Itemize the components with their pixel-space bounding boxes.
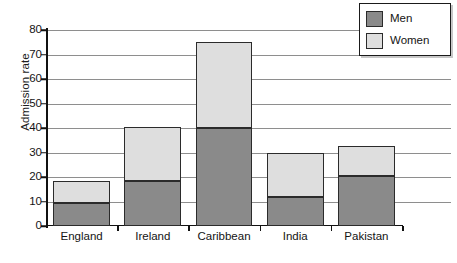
legend-swatch-men-icon (366, 11, 383, 27)
bar-segment-men[interactable] (338, 176, 395, 226)
x-axis-tick-labels: EnglandIrelandCaribbeanIndiaPakistan (46, 231, 406, 251)
bar-segment-women[interactable] (338, 146, 395, 175)
legend-item-men: Men (366, 9, 445, 28)
legend-item-women: Women (366, 31, 445, 50)
legend-swatch-women-icon (366, 33, 383, 49)
stacked-bar-chart: Admission rate 01020304050607080 England… (0, 0, 457, 263)
y-axis-tick-labels: 01020304050607080 (16, 30, 42, 226)
bar-segment-women[interactable] (124, 127, 181, 181)
y-tick-label: 10 (16, 196, 42, 208)
y-tick-label: 50 (16, 98, 42, 110)
y-tick-label: 70 (16, 49, 42, 61)
bar-group[interactable] (196, 42, 253, 226)
legend-label-men: Men (390, 13, 412, 25)
bar-segment-women[interactable] (53, 181, 110, 203)
y-tick-mark (41, 176, 46, 178)
y-tick-label: 30 (16, 147, 42, 159)
x-tick-label: Pakistan (344, 231, 388, 243)
bar-group[interactable] (53, 181, 110, 226)
bar-segment-women[interactable] (196, 42, 253, 128)
legend: Men Women (359, 3, 451, 56)
y-tick-mark (41, 103, 46, 105)
y-tick-label: 0 (16, 220, 42, 232)
y-tick-mark (41, 225, 46, 227)
bar-segment-women[interactable] (267, 153, 324, 197)
y-tick-mark (41, 127, 46, 129)
x-tick-label: Ireland (135, 231, 170, 243)
bar-group[interactable] (338, 146, 395, 226)
bar-segment-men[interactable] (196, 128, 253, 226)
plot-area (46, 30, 402, 226)
bar-segment-men[interactable] (267, 197, 324, 226)
y-tick-label: 40 (16, 122, 42, 134)
y-tick-label: 60 (16, 73, 42, 85)
y-tick-label: 80 (16, 24, 42, 36)
bar-segment-men[interactable] (53, 203, 110, 226)
x-tick-label: India (283, 231, 308, 243)
y-tick-mark (41, 78, 46, 80)
bar-group[interactable] (267, 153, 324, 227)
bars-layer (46, 30, 402, 226)
y-tick-mark (41, 54, 46, 56)
y-tick-mark (41, 201, 46, 203)
x-tick-label: Caribbean (197, 231, 250, 243)
bar-group[interactable] (124, 127, 181, 226)
y-tick-mark (41, 29, 46, 31)
legend-label-women: Women (390, 35, 429, 47)
bar-segment-men[interactable] (124, 181, 181, 226)
x-tick-label: England (60, 231, 102, 243)
y-tick-label: 20 (16, 171, 42, 183)
y-tick-mark (41, 152, 46, 154)
